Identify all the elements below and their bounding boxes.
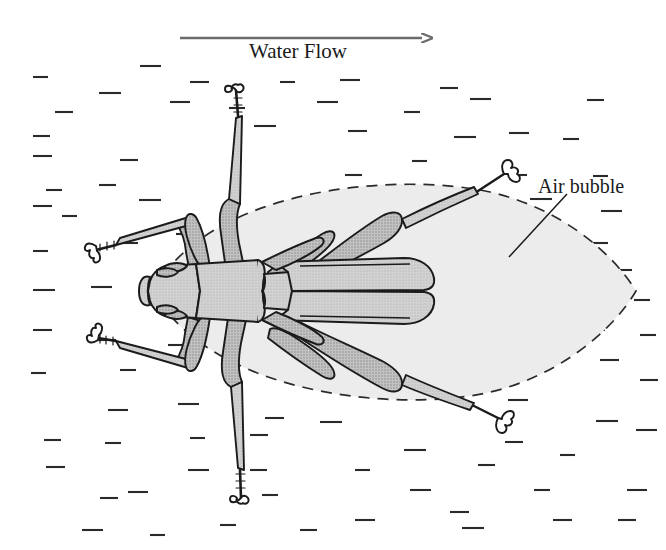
rostrum [139, 277, 150, 306]
scutellum [263, 272, 292, 310]
pronotum [196, 260, 262, 322]
water-flow-label: Water Flow [249, 39, 348, 63]
elytron-upper [275, 258, 434, 291]
air-bubble-label: Air bubble [538, 175, 624, 197]
antennal-lobe-lower [157, 305, 178, 313]
antennal-lobe-upper [157, 268, 178, 276]
aquatic-bug-diagram: Water Flow Air bubble [0, 0, 666, 550]
elytron-lower [275, 291, 434, 324]
illustration-canvas: Water Flow Air bubble [0, 0, 666, 550]
